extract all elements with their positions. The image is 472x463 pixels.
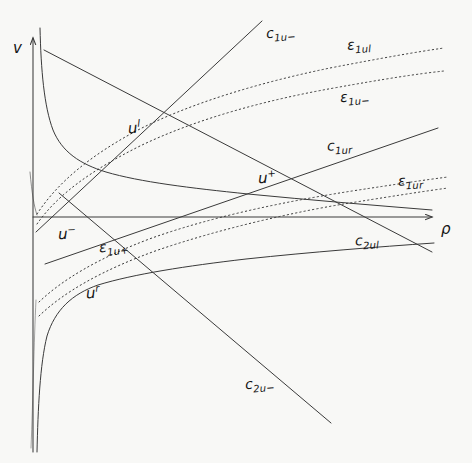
curve-label-c2ul: c2ul — [355, 231, 380, 248]
curve-label-eps1ul: ε1ul — [346, 35, 371, 53]
curve-label-eps1u-minus: ε1u− — [339, 87, 370, 105]
point-label-u-plus: u+ — [258, 170, 276, 187]
curve-label-c2u-minus: c2u− — [244, 374, 275, 393]
curve-label-eps1ur: ε1ur — [398, 171, 424, 188]
curve-upper-hyperbola — [40, 28, 432, 210]
curve-label-c1u-minus: c1u− — [265, 23, 296, 42]
line-c2u-minus — [59, 193, 331, 423]
point-label-u-minus: u− — [58, 226, 76, 243]
curve-eps1ul — [37, 48, 444, 214]
y-axis-label: v — [13, 40, 22, 56]
point-label-u-left: ul — [127, 120, 140, 137]
point-label-u-right: ur — [85, 285, 100, 302]
curve-label-eps1u-plus: ε1u+ — [98, 237, 129, 256]
figure-canvas: v ρ ul u+ u− ur c1u− ε1ul ε1u− c1ur ε1ur… — [0, 0, 472, 463]
x-axis-label: ρ — [441, 221, 451, 237]
curve-label-c1ur: c1ur — [327, 136, 353, 153]
curve-lower-hyperbola — [37, 243, 434, 452]
